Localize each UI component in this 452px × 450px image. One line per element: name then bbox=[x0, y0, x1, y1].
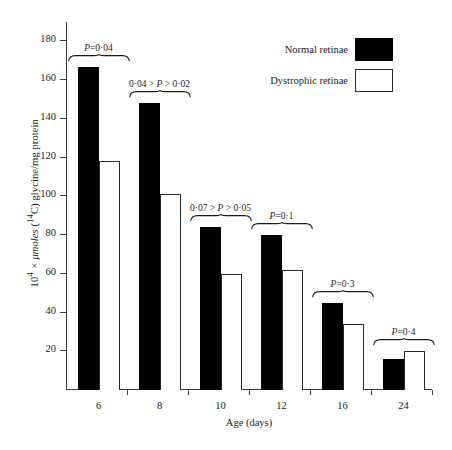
p-value-text-16: P=0·3 bbox=[331, 279, 355, 289]
x-tick-label-24: 24 bbox=[398, 400, 409, 411]
y-tick-160: 160 bbox=[60, 79, 66, 80]
x-tick-sep-0 bbox=[127, 390, 128, 395]
y-tick-label-140: 140 bbox=[40, 111, 56, 122]
p-value-annotation-16: P=0·3 bbox=[312, 276, 374, 298]
y-axis-title: 104 × μmoles (14C) glycine/mg protein bbox=[25, 83, 40, 323]
bar-normal-6 bbox=[78, 67, 99, 390]
p-value-brace-12 bbox=[251, 222, 313, 230]
x-tick-sep-5 bbox=[432, 390, 433, 395]
p-value-text-10: 0·07 > P > 0·05 bbox=[190, 203, 251, 213]
bar-normal-10 bbox=[200, 227, 221, 390]
x-tick-sep-1 bbox=[188, 390, 189, 395]
legend-label-dystrophic: Dystrophic retinae bbox=[236, 75, 355, 86]
y-tick-120: 120 bbox=[60, 157, 66, 158]
x-tick-sep-4 bbox=[371, 390, 372, 395]
p-value-text-24: P=0·4 bbox=[392, 327, 416, 337]
bar-dystrophic-8 bbox=[160, 194, 181, 390]
y-tick-label-80: 80 bbox=[46, 227, 57, 238]
bar-chart-figure: 104 × μmoles (14C) glycine/mg protein 20… bbox=[0, 0, 452, 450]
p-value-text-6: P=0·04 bbox=[84, 43, 113, 53]
legend-swatch-dystrophic bbox=[355, 69, 393, 92]
bar-dystrophic-12 bbox=[282, 270, 303, 390]
bar-dystrophic-6 bbox=[99, 161, 120, 390]
p-value-brace-8 bbox=[129, 90, 191, 98]
legend-swatch-normal bbox=[355, 38, 393, 61]
y-tick-40: 40 bbox=[60, 312, 66, 313]
bar-dystrophic-16 bbox=[343, 324, 364, 390]
bar-dystrophic-10 bbox=[221, 274, 242, 390]
p-value-annotation-12: P=0·1 bbox=[251, 208, 313, 230]
p-value-brace-6 bbox=[68, 54, 130, 62]
x-tick-label-10: 10 bbox=[215, 400, 226, 411]
bar-dystrophic-24 bbox=[404, 351, 425, 390]
x-tick-sep-2 bbox=[249, 390, 250, 395]
bar-normal-16 bbox=[322, 303, 343, 390]
p-value-brace-16 bbox=[312, 290, 374, 298]
bar-normal-12 bbox=[261, 235, 282, 390]
p-value-annotation-6: P=0·04 bbox=[68, 40, 130, 62]
chart-legend: Normal retinae Dystrophic retinae bbox=[236, 36, 393, 98]
figure-caption bbox=[0, 441, 452, 450]
x-tick-label-16: 16 bbox=[337, 400, 348, 411]
p-value-brace-10 bbox=[190, 214, 252, 222]
x-tick-label-6: 6 bbox=[96, 400, 101, 411]
y-tick-label-100: 100 bbox=[40, 188, 56, 199]
y-tick-label-180: 180 bbox=[40, 33, 56, 44]
p-value-annotation-24: P=0·4 bbox=[373, 324, 435, 346]
y-tick-60: 60 bbox=[60, 273, 66, 274]
x-tick-label-12: 12 bbox=[276, 400, 287, 411]
y-tick-100: 100 bbox=[60, 195, 66, 196]
y-tick-180: 180 bbox=[60, 40, 66, 41]
y-tick-label-60: 60 bbox=[46, 266, 57, 277]
p-value-text-12: P=0·1 bbox=[270, 211, 294, 221]
y-tick-label-40: 40 bbox=[46, 305, 57, 316]
x-tick-sep-3 bbox=[310, 390, 311, 395]
y-tick-80: 80 bbox=[60, 234, 66, 235]
legend-label-normal: Normal retinae bbox=[236, 44, 355, 55]
legend-item-normal: Normal retinae bbox=[236, 36, 393, 62]
y-axis-title-text: 104 × μmoles (14C) glycine/mg protein bbox=[28, 119, 39, 287]
p-value-brace-24 bbox=[373, 338, 435, 346]
bar-normal-8 bbox=[139, 103, 160, 390]
p-value-annotation-10: 0·07 > P > 0·05 bbox=[190, 200, 252, 222]
x-axis-title: Age (days) bbox=[66, 417, 432, 428]
y-tick-20: 20 bbox=[60, 350, 66, 351]
y-tick-140: 140 bbox=[60, 118, 66, 119]
legend-item-dystrophic: Dystrophic retinae bbox=[236, 67, 393, 93]
y-tick-label-120: 120 bbox=[40, 150, 56, 161]
y-tick-label-160: 160 bbox=[40, 72, 56, 83]
y-axis-line bbox=[66, 22, 67, 390]
x-tick-label-8: 8 bbox=[157, 400, 162, 411]
y-tick-label-20: 20 bbox=[46, 343, 57, 354]
bar-normal-24 bbox=[383, 359, 404, 390]
p-value-annotation-8: 0·04 > P > 0·02 bbox=[129, 76, 191, 98]
p-value-text-8: 0·04 > P > 0·02 bbox=[129, 79, 190, 89]
